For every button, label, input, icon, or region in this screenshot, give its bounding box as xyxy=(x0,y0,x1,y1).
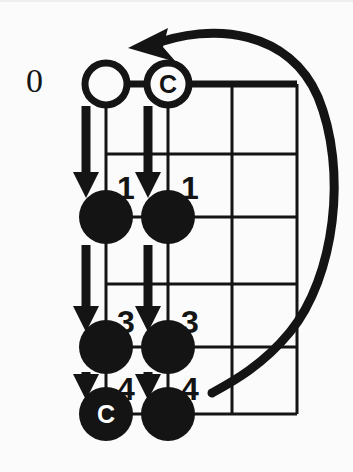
open-string-1 xyxy=(85,63,127,105)
note-s1-f5-label: C xyxy=(97,400,115,429)
finger-label-4-right: 4 xyxy=(181,373,199,405)
arrow-s1-f2-to-f4 xyxy=(73,245,99,332)
fretboard-diagram: 0 CC113344 xyxy=(0,0,353,472)
finger-label-1-right: 1 xyxy=(181,172,199,204)
arrow-s2-open-to-f2 xyxy=(135,106,161,198)
return-sweep-arrowhead xyxy=(128,28,176,62)
fret-grid xyxy=(106,84,297,414)
finger-label-3-left: 3 xyxy=(117,306,135,338)
arrow-s2-f2-to-f4 xyxy=(135,245,161,332)
open-fret-label: 0 xyxy=(26,64,43,98)
open-string-2-label: C xyxy=(159,70,177,99)
finger-label-1-left: 1 xyxy=(117,172,135,204)
finger-label-3-right: 3 xyxy=(181,306,199,338)
note-markers-group xyxy=(79,63,195,441)
arrow-s1-open-to-f2 xyxy=(73,106,99,198)
finger-label-4-left: 4 xyxy=(117,373,135,405)
